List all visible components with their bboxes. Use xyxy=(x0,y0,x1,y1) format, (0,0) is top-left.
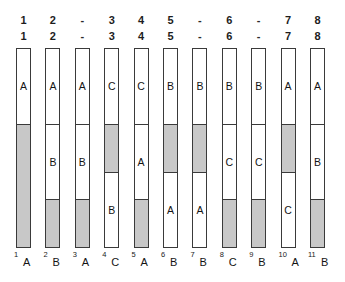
column-1-segment-1[interactable]: A xyxy=(17,49,30,124)
column-5-segment-1[interactable]: C xyxy=(135,49,148,124)
header-bottom-label-8: 6 xyxy=(221,29,237,43)
column-10-segment-1[interactable]: A xyxy=(282,49,295,124)
footer-letter: A xyxy=(141,256,148,269)
segment-label: A xyxy=(138,157,145,168)
segment-label: B xyxy=(167,81,174,92)
segment-label: B xyxy=(255,81,262,92)
segment-label: A xyxy=(314,81,321,92)
footer-letter: B xyxy=(321,256,328,269)
footer-label-4: 4C xyxy=(102,250,128,270)
column-11[interactable]: AB xyxy=(310,48,325,248)
footer-label-5: 5A xyxy=(132,250,158,270)
segment-label: B xyxy=(79,157,86,168)
segment-label: A xyxy=(196,205,203,216)
column-4-segment-1[interactable]: C xyxy=(105,49,118,124)
column-1-segment-2[interactable] xyxy=(17,124,30,247)
segment-label: B xyxy=(226,81,233,92)
column-3-segment-3[interactable] xyxy=(76,199,89,247)
segment-label: C xyxy=(137,81,145,92)
column-10-segment-2[interactable] xyxy=(282,124,295,172)
header-top-label-8: 6 xyxy=(221,13,237,27)
footer-label-2: 2B xyxy=(43,250,69,270)
column-5-segment-2[interactable]: A xyxy=(135,124,148,199)
column-6-segment-3[interactable]: A xyxy=(164,172,177,247)
column-3-segment-1[interactable]: A xyxy=(76,49,89,124)
header-bottom-label-7: - xyxy=(192,29,208,43)
column-2-segment-3[interactable] xyxy=(46,199,59,247)
footer-label-7: 7B xyxy=(190,250,216,270)
footer-letter: C xyxy=(111,256,119,269)
footer-letter: B xyxy=(258,256,265,269)
segment-label: B xyxy=(314,157,321,168)
column-9-segment-1[interactable]: B xyxy=(252,49,265,124)
footer-index: 8 xyxy=(220,250,224,259)
header-row-top: 12-345-6-78 xyxy=(0,13,345,27)
footer-label-10: 10A xyxy=(279,250,309,270)
column-5[interactable]: CA xyxy=(134,48,149,248)
header-top-label-5: 4 xyxy=(133,13,149,27)
header-row-bottom: 12-345-6-78 xyxy=(0,29,345,43)
column-2-segment-1[interactable]: A xyxy=(46,49,59,124)
footer-letter: B xyxy=(52,256,59,269)
column-10-segment-3[interactable]: C xyxy=(282,172,295,247)
header-top-label-10: 7 xyxy=(280,13,296,27)
header-top-label-4: 3 xyxy=(104,13,120,27)
column-8-segment-1[interactable]: B xyxy=(223,49,236,124)
column-4-segment-3[interactable]: B xyxy=(105,172,118,247)
footer-letter: A xyxy=(82,256,89,269)
header-bottom-label-11: 8 xyxy=(310,29,326,43)
segment-label: C xyxy=(226,157,234,168)
column-6-segment-1[interactable]: B xyxy=(164,49,177,124)
column-4[interactable]: CB xyxy=(104,48,119,248)
footer-label-6: 6B xyxy=(161,250,187,270)
column-2-segment-2[interactable]: B xyxy=(46,124,59,199)
column-9-segment-2[interactable]: C xyxy=(252,124,265,199)
column-9[interactable]: BC xyxy=(251,48,266,248)
column-4-segment-2[interactable] xyxy=(105,124,118,172)
header-bottom-label-1: 1 xyxy=(16,29,32,43)
footer-index: 2 xyxy=(43,250,47,259)
column-9-segment-3[interactable] xyxy=(252,199,265,247)
segment-label: C xyxy=(255,157,263,168)
segment-label: C xyxy=(284,205,292,216)
column-7-segment-3[interactable]: A xyxy=(193,172,206,247)
header-top-label-1: 1 xyxy=(16,13,32,27)
column-11-segment-2[interactable]: B xyxy=(311,124,324,199)
column-10[interactable]: AC xyxy=(281,48,296,248)
column-2[interactable]: AB xyxy=(45,48,60,248)
column-8-segment-3[interactable] xyxy=(223,199,236,247)
column-7-segment-1[interactable]: B xyxy=(193,49,206,124)
header-bottom-label-4: 3 xyxy=(104,29,120,43)
footer-index: 10 xyxy=(279,250,287,259)
column-8[interactable]: BC xyxy=(222,48,237,248)
column-3[interactable]: AB xyxy=(75,48,90,248)
column-6[interactable]: BA xyxy=(163,48,178,248)
column-1[interactable]: A xyxy=(16,48,31,248)
column-7[interactable]: BA xyxy=(192,48,207,248)
footer-label-3: 3A xyxy=(73,250,99,270)
header-top-label-7: - xyxy=(192,13,208,27)
column-5-segment-3[interactable] xyxy=(135,199,148,247)
footer-index: 6 xyxy=(161,250,165,259)
footer-letter: A xyxy=(23,256,30,269)
footer-index: 7 xyxy=(190,250,194,259)
column-11-segment-1[interactable]: A xyxy=(311,49,324,124)
column-11-segment-3[interactable] xyxy=(311,199,324,247)
footer-index: 9 xyxy=(249,250,253,259)
header-top-label-9: - xyxy=(251,13,267,27)
header-top-label-3: - xyxy=(74,13,90,27)
header-bottom-label-5: 4 xyxy=(133,29,149,43)
footer-label-row: 1A2B3A4C5A6B7B8C9B10A11B xyxy=(0,250,345,272)
header-bottom-label-10: 7 xyxy=(280,29,296,43)
footer-label-11: 11B xyxy=(308,250,338,270)
footer-index: 3 xyxy=(73,250,77,259)
column-3-segment-2[interactable]: B xyxy=(76,124,89,199)
segment-label: A xyxy=(49,81,56,92)
column-8-segment-2[interactable]: C xyxy=(223,124,236,199)
column-7-segment-2[interactable] xyxy=(193,124,206,172)
header-top-label-2: 2 xyxy=(45,13,61,27)
footer-label-9: 9B xyxy=(249,250,275,270)
header-bottom-label-3: - xyxy=(74,29,90,43)
column-6-segment-2[interactable] xyxy=(164,124,177,172)
segment-label: B xyxy=(49,157,56,168)
